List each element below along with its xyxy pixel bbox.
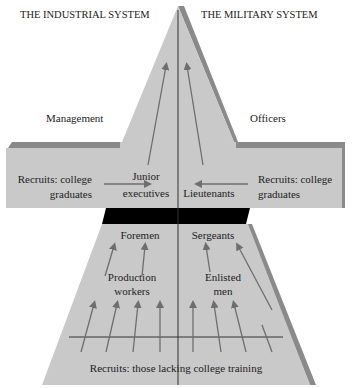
left-arm-top-edge xyxy=(8,142,124,148)
left-recruits-line1: Recruits: college xyxy=(18,173,92,185)
right-recruits-line1: Recruits: college xyxy=(258,173,332,185)
label-management: Management xyxy=(46,112,103,124)
right-recruits-line2: graduates xyxy=(258,188,300,200)
label-production: Production xyxy=(108,271,157,283)
label-junior: Junior xyxy=(132,170,160,182)
label-enlisted: Enlisted xyxy=(205,271,242,283)
pyramid-diagram: THE INDUSTRIAL SYSTEM THE MILITARY SYSTE… xyxy=(0,0,358,388)
label-workers: workers xyxy=(114,285,149,297)
label-foremen: Foremen xyxy=(120,229,160,241)
black-bar xyxy=(102,208,250,224)
header-military: THE MILITARY SYSTEM xyxy=(201,9,318,20)
label-sergeants: Sergeants xyxy=(192,229,235,241)
left-recruits-line2: graduates xyxy=(50,188,92,200)
label-executives: executives xyxy=(123,187,169,199)
label-lieutenants: Lieutenants xyxy=(183,187,234,199)
header-industrial: THE INDUSTRIAL SYSTEM xyxy=(20,9,150,20)
label-men: men xyxy=(214,285,233,297)
label-base-recruits: Recruits: those lacking college training xyxy=(90,362,263,374)
label-officers: Officers xyxy=(250,112,286,124)
